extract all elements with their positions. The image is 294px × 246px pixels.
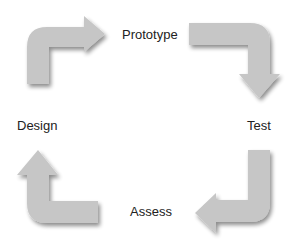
curved-arrow-down-left-icon — [195, 150, 270, 233]
stage-label-test: Test — [247, 119, 271, 132]
stage-label-design: Design — [17, 119, 57, 132]
stage-label-assess: Assess — [130, 205, 172, 218]
curved-arrow-up-right-icon — [27, 16, 105, 84]
curved-arrow-left-up-icon — [17, 150, 98, 223]
cycle-diagram: Prototype Test Assess Design — [0, 0, 294, 246]
curved-arrow-right-down-icon — [189, 23, 280, 98]
stage-label-prototype: Prototype — [122, 28, 178, 41]
